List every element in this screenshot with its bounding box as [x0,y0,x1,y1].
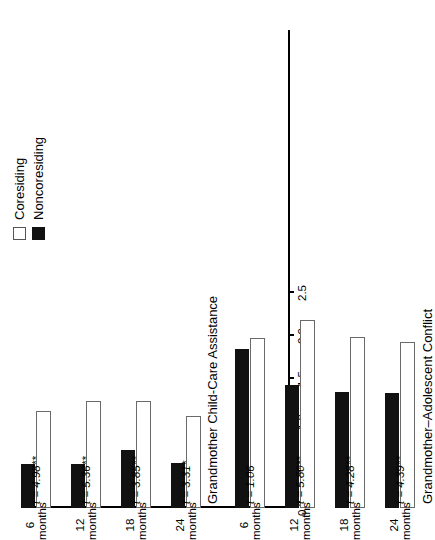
stat-conflict-24months: t = 4.39** [394,456,406,504]
bar-conflict-24months-coresiding [400,342,415,508]
bar-conflict-24months-noncoresiding [385,393,399,508]
panel-title-conflict: Grandmother–Adolescent Conflict [420,309,435,504]
category-label-conflict-24months: 24 months [388,510,412,540]
category-unit: months [400,510,412,540]
category-num: 24 [388,510,400,540]
